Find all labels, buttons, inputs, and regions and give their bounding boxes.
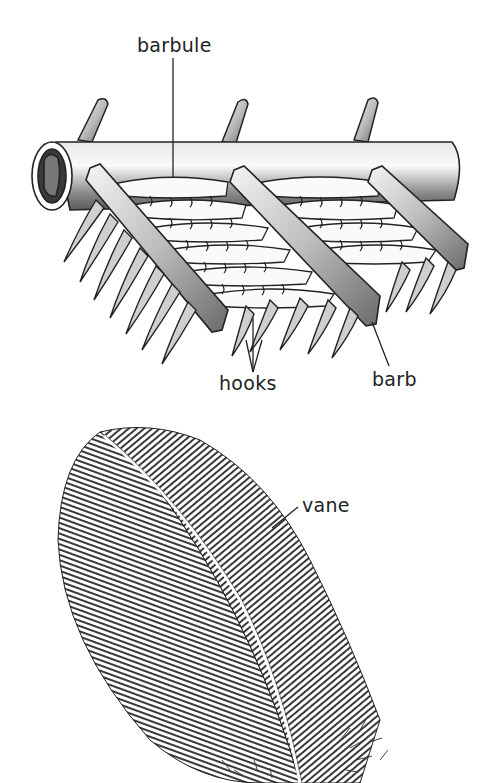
- label-vane: vane: [302, 494, 350, 516]
- label-barbule: barbule: [137, 34, 212, 56]
- rachis: [104, 436, 300, 783]
- feather-down: [222, 716, 388, 778]
- feather-vane: [58, 428, 380, 783]
- vane-leader-line: [272, 507, 298, 528]
- shaft-stubs: [78, 98, 378, 143]
- barb-detail-illustration: [0, 0, 493, 420]
- label-hooks: hooks: [219, 372, 277, 394]
- label-barb: barb: [372, 368, 417, 390]
